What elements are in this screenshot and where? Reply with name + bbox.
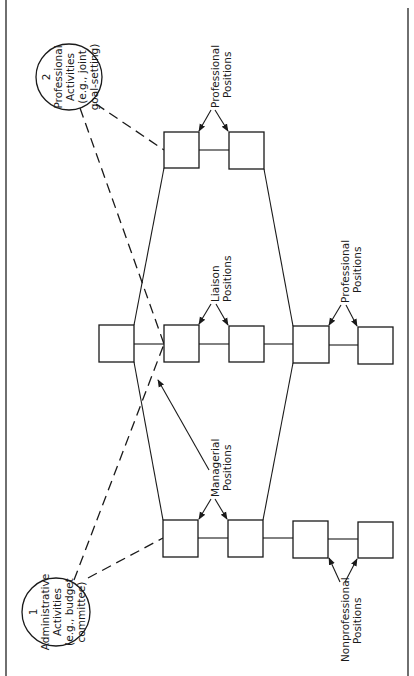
- activity-line: (e.g., budget: [63, 578, 75, 646]
- activity-line: Activities: [51, 588, 63, 636]
- svg-text:Managerial: Managerial: [209, 439, 221, 497]
- activity-line: (e.g., joint: [76, 50, 88, 104]
- position-box: [293, 521, 328, 558]
- svg-text:Positions: Positions: [221, 256, 233, 302]
- activity-number: 2: [40, 74, 52, 81]
- svg-text:Positions: Positions: [351, 247, 363, 293]
- position-box: [99, 325, 134, 362]
- position-box: [228, 520, 263, 557]
- organization-diagram: 2 Professional Activities (e.g., joint g…: [0, 0, 414, 676]
- position-box: [229, 132, 264, 169]
- position-box: [358, 522, 393, 558]
- activity-line: Activities: [64, 53, 76, 101]
- svg-text:Professional: Professional: [209, 45, 221, 108]
- activity-line: committee): [75, 582, 87, 643]
- position-box: [164, 325, 199, 362]
- svg-text:Positions: Positions: [221, 52, 233, 98]
- position-box: [229, 326, 264, 362]
- activity-line: Administrative: [39, 574, 51, 650]
- label-professional-right: Professional Positions: [339, 240, 363, 303]
- activity-line: Professional: [52, 45, 64, 108]
- svg-text:Liaison: Liaison: [209, 265, 221, 302]
- label-nonprofessional: Nonprofessional Positions: [339, 577, 363, 662]
- position-box: [164, 132, 199, 168]
- position-box: [163, 520, 198, 557]
- bottom-row: [163, 520, 393, 558]
- svg-text:Nonprofessional: Nonprofessional: [339, 577, 351, 662]
- label-professional-top: Professional Positions: [209, 45, 233, 108]
- activity-circle-1: 1 Administrative Activities (e.g., budge…: [22, 574, 90, 650]
- position-box: [293, 326, 329, 363]
- svg-text:Positions: Positions: [351, 598, 363, 644]
- label-liaison: Liaison Positions: [209, 256, 233, 302]
- activity-circle-2: 2 Professional Activities (e.g., joint g…: [36, 44, 102, 111]
- label-managerial: Managerial Positions: [209, 439, 233, 497]
- svg-text:Positions: Positions: [221, 445, 233, 491]
- svg-text:Professional: Professional: [339, 240, 351, 303]
- activity-line: goal-setting): [88, 44, 100, 111]
- activity-number: 1: [27, 609, 39, 616]
- position-box: [358, 327, 393, 364]
